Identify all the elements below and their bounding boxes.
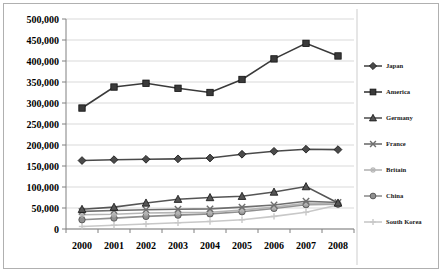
line-chart: 050,000100,000150,000200,000250,000300,0… <box>4 4 440 270</box>
legend-item-label: America <box>386 88 411 95</box>
legend-item-china[interactable]: China <box>364 192 404 199</box>
y-tick-label: 350,000 <box>27 77 60 88</box>
y-tick-label: 150,000 <box>27 161 60 172</box>
y-tick-label: 300,000 <box>27 98 60 109</box>
y-tick-label: 500,000 <box>27 14 60 25</box>
y-tick-label: 200,000 <box>27 140 60 151</box>
legend-item-britain[interactable]: Britain <box>364 166 406 173</box>
x-axis-ticks: 200020012002200320042005200620072008 <box>66 229 354 251</box>
x-tick-label: 2008 <box>328 240 348 251</box>
x-tick-label: 2006 <box>264 240 284 251</box>
series-line <box>82 43 338 108</box>
y-tick-label: 250,000 <box>27 119 60 130</box>
legend-item-label: Germany <box>386 114 413 121</box>
legend-item-label: Japan <box>386 62 404 69</box>
legend-item-south-korea[interactable]: South Korea <box>364 218 422 225</box>
legend-item-france[interactable]: France <box>364 140 406 147</box>
x-tick-label: 2001 <box>104 240 124 251</box>
x-tick-label: 2005 <box>232 240 252 251</box>
legend-item-label: South Korea <box>386 218 422 225</box>
y-tick-label: 0 <box>54 224 59 235</box>
legend-item-label: Britain <box>386 166 406 173</box>
plot-area-wrapper: 050,000100,000150,000200,000250,000300,0… <box>4 4 440 270</box>
legend-item-america[interactable]: America <box>364 88 411 95</box>
series-japan <box>78 145 342 164</box>
legend-item-japan[interactable]: Japan <box>364 62 404 70</box>
series-america <box>79 40 341 111</box>
x-tick-label: 2000 <box>72 240 92 251</box>
x-tick-label: 2003 <box>168 240 188 251</box>
x-tick-label: 2004 <box>200 240 220 251</box>
y-tick-label: 100,000 <box>27 182 60 193</box>
y-tick-label: 400,000 <box>27 56 60 67</box>
legend: JapanAmericaGermanyFranceBritainChinaSou… <box>357 9 422 265</box>
legend-item-label: France <box>386 140 406 147</box>
x-tick-label: 2002 <box>136 240 156 251</box>
y-tick-label: 50,000 <box>32 203 60 214</box>
legend-item-germany[interactable]: Germany <box>364 114 413 121</box>
legend-item-label: China <box>386 192 404 199</box>
x-tick-label: 2007 <box>296 240 316 251</box>
y-tick-label: 450,000 <box>27 35 60 46</box>
chart-frame: 050,000100,000150,000200,000250,000300,0… <box>3 3 439 269</box>
